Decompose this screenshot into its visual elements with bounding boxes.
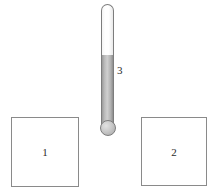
diagram-canvas: 1 3 2 [0, 0, 219, 195]
thermometer-mercury-fill [102, 55, 113, 125]
square-2: 2 [141, 117, 207, 186]
square-1: 1 [11, 117, 79, 187]
thermometer [99, 2, 119, 138]
square-2-label: 2 [142, 146, 206, 157]
square-1-label: 1 [12, 147, 78, 158]
thermometer-label: 3 [117, 65, 123, 76]
thermometer-bulb-icon [100, 120, 116, 136]
